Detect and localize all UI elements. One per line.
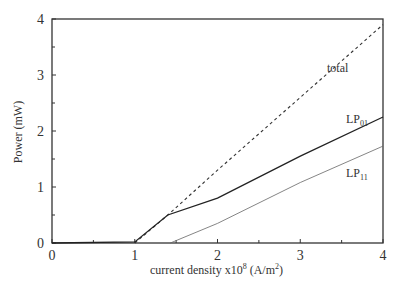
y-tick-label: 3 [37, 68, 44, 83]
y-axis-label: Power (mW) [11, 101, 25, 163]
x-axis-label: current density x108 (A/m2) [150, 262, 283, 277]
series-labels: totalLP01LP11 [327, 61, 368, 182]
series-label-total: total [327, 61, 349, 75]
x-tick-label: 2 [214, 248, 221, 263]
series-line-lp01 [52, 117, 383, 243]
y-tick-label: 4 [37, 12, 44, 27]
series-label-lp11: LP11 [346, 166, 368, 182]
x-tick-label: 1 [131, 248, 138, 263]
y-tick-label: 0 [37, 236, 44, 251]
axis-ticks: 0123401234 [37, 12, 387, 263]
series-line-lp11 [170, 146, 383, 243]
plot-border [52, 19, 383, 243]
series-label-lp01: LP01 [346, 112, 368, 128]
y-tick-label: 2 [37, 124, 44, 139]
x-tick-label: 0 [49, 248, 56, 263]
series-line-total [135, 25, 383, 243]
plot-frame [52, 19, 383, 243]
chart: 0123401234 totalLP01LP11 current density… [0, 0, 400, 294]
series-group [52, 25, 383, 243]
x-tick-label: 4 [380, 248, 387, 263]
y-tick-label: 1 [37, 180, 44, 195]
x-tick-label: 3 [297, 248, 304, 263]
